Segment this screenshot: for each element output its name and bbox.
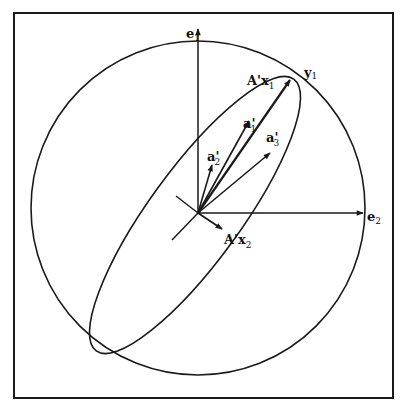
minor-axis-line bbox=[176, 196, 198, 213]
label-A-x1: A'x1 bbox=[246, 73, 275, 91]
label-a2: a'2 bbox=[207, 149, 220, 167]
label-a1: a'1 bbox=[243, 116, 256, 134]
ellipse-projection-diagram: e1 e2 y1 A'x1 a'1 a'3 a'2 A'x2 bbox=[0, 0, 406, 409]
vector-a2-arrow bbox=[198, 165, 212, 213]
image-ellipse bbox=[59, 52, 331, 378]
major-axis-line bbox=[172, 213, 198, 240]
label-e2: e2 bbox=[367, 209, 381, 226]
label-e1: e1 bbox=[186, 26, 200, 43]
vector-a1-arrow bbox=[198, 121, 249, 213]
label-A-x2: A'x2 bbox=[223, 232, 252, 250]
label-a3: a'3 bbox=[266, 130, 279, 148]
vector-A-x2-arrow bbox=[198, 213, 222, 229]
label-y1: y1 bbox=[303, 65, 317, 81]
diagram-canvas: e1 e2 y1 A'x1 a'1 a'3 a'2 A'x2 bbox=[0, 0, 406, 409]
